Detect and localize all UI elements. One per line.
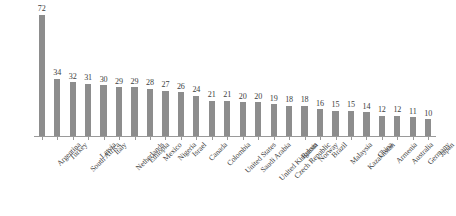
x-axis-tick	[258, 136, 259, 140]
x-axis-tick	[196, 136, 197, 140]
bar-rect	[70, 82, 76, 136]
bar-rect	[425, 119, 431, 136]
bar-rect	[147, 89, 153, 136]
bar-united-kingdom: 20	[250, 8, 265, 136]
bar-rect	[286, 106, 292, 136]
bar-armenia: 12	[374, 8, 389, 136]
x-axis-tick	[119, 136, 120, 140]
bar-norway: 18	[297, 8, 312, 136]
bar-china: 14	[359, 8, 374, 136]
plot-area: 7234323130292928272624212120201918181615…	[34, 8, 436, 136]
bar-italy: 30	[96, 8, 111, 136]
x-axis-tick	[212, 136, 213, 140]
x-axis-tick	[227, 136, 228, 140]
bar-rect	[39, 15, 45, 136]
bar-kazakhstan: 15	[343, 8, 358, 136]
bar-rect	[317, 109, 323, 136]
x-axis-tick	[366, 136, 367, 140]
bar-rect	[178, 92, 184, 136]
x-axis-tick	[181, 136, 182, 140]
bar-rect	[394, 116, 400, 136]
bar-rect	[193, 96, 199, 136]
bar-rect	[271, 104, 277, 136]
bar-israel: 26	[173, 8, 188, 136]
bar-russia: 18	[281, 8, 296, 136]
x-axis-tick	[289, 136, 290, 140]
bar-australia: 12	[390, 8, 405, 136]
bar-colombia: 21	[204, 8, 219, 136]
x-axis-tick	[42, 136, 43, 140]
x-axis-tick	[73, 136, 74, 140]
x-axis-tick	[104, 136, 105, 140]
bar-mexico: 28	[142, 8, 157, 136]
bar-rect	[116, 87, 122, 136]
x-axis-tick	[351, 136, 352, 140]
bar-rect	[301, 106, 307, 136]
x-axis-tick	[57, 136, 58, 140]
x-axis-tick	[305, 136, 306, 140]
x-axis-tick	[274, 136, 275, 140]
bar-japan: 10	[421, 8, 436, 136]
bar-united-states: 21	[220, 8, 235, 136]
x-axis-tick	[165, 136, 166, 140]
x-axis-tick	[382, 136, 383, 140]
x-axis-tick	[243, 136, 244, 140]
bar-value-label: 10	[416, 109, 440, 118]
bar-czech-republic: 19	[266, 8, 281, 136]
bar-rect	[332, 111, 338, 136]
bar-canada: 24	[189, 8, 204, 136]
bar-saudi-arabia: 20	[235, 8, 250, 136]
bar-rect	[255, 102, 261, 136]
x-axis-tick	[413, 136, 414, 140]
bar-rect	[224, 101, 230, 136]
bar-brazil: 16	[312, 8, 327, 136]
x-axis-tick	[150, 136, 151, 140]
bar-rect	[363, 112, 369, 136]
x-axis-tick	[320, 136, 321, 140]
x-axis-tick	[135, 136, 136, 140]
bar-rect	[379, 116, 385, 136]
bar-netherlands: 29	[111, 8, 126, 136]
x-axis-tick	[88, 136, 89, 140]
bar-latvia: 31	[80, 8, 95, 136]
bar-ethiopia: 29	[127, 8, 142, 136]
bar-malaysia: 15	[328, 8, 343, 136]
bar-rect	[240, 102, 246, 136]
bar-rect	[410, 117, 416, 136]
bar-rect	[131, 87, 137, 136]
x-axis-tick	[336, 136, 337, 140]
x-axis-tick	[428, 136, 429, 140]
bar-rect	[209, 101, 215, 136]
bar-rect	[54, 79, 60, 136]
bar-rect	[162, 91, 168, 136]
bar-rect	[85, 84, 91, 136]
x-axis-tick	[397, 136, 398, 140]
bar-nigeria: 27	[158, 8, 173, 136]
x-axis-category-labels: ArgentinaTurkeySouth AfricaLatviaItalyNe…	[34, 141, 436, 215]
x-axis-line	[34, 136, 436, 137]
bar-rect	[348, 111, 354, 136]
bar-south-africa: 32	[65, 8, 80, 136]
bar-rect	[100, 85, 106, 136]
